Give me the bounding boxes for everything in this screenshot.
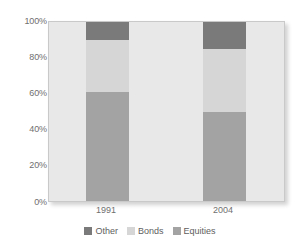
y-axis-tick-label: 80% bbox=[1, 53, 47, 62]
y-axis-tick-label: 100% bbox=[1, 17, 47, 26]
stacked-bar-chart: 100% 80% 60% 40% 20% 0% 1991 2004 Other … bbox=[0, 0, 300, 247]
y-axis-tick-label: 60% bbox=[1, 89, 47, 98]
legend-swatch-icon bbox=[127, 227, 135, 235]
legend-item-bonds: Bonds bbox=[127, 226, 164, 236]
y-axis-tick-label: 40% bbox=[1, 125, 47, 134]
legend-item-other: Other bbox=[84, 226, 118, 236]
bar-segment-bonds bbox=[86, 40, 129, 92]
legend-swatch-icon bbox=[84, 227, 92, 235]
legend-label: Equities bbox=[184, 226, 216, 236]
bar-segment-equities bbox=[203, 112, 246, 202]
x-axis-tick-label-1991: 1991 bbox=[76, 205, 136, 216]
stacked-bar-2004 bbox=[203, 22, 246, 201]
y-axis-tick-label: 20% bbox=[1, 161, 47, 170]
bar-segment-other bbox=[203, 22, 246, 49]
x-axis-tick-label-2004: 2004 bbox=[193, 205, 253, 216]
bar-segment-other bbox=[86, 22, 129, 40]
legend-label: Bonds bbox=[138, 226, 164, 236]
legend-label: Other bbox=[95, 226, 118, 236]
stacked-bar-1991 bbox=[86, 22, 129, 201]
legend-swatch-icon bbox=[173, 227, 181, 235]
y-axis-tick-label: 0% bbox=[1, 198, 47, 207]
bar-segment-equities bbox=[86, 92, 129, 201]
legend-item-equities: Equities bbox=[173, 226, 216, 236]
plot-area bbox=[48, 21, 285, 202]
bar-segment-bonds bbox=[203, 49, 246, 112]
chart-legend: Other Bonds Equities bbox=[0, 226, 300, 236]
